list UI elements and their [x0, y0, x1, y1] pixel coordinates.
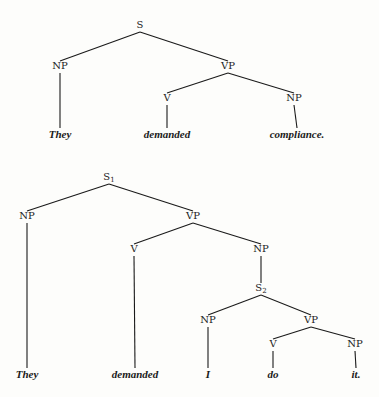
tree-edge	[109, 184, 193, 211]
category-node: VP	[303, 314, 318, 325]
category-node: VP	[220, 60, 235, 71]
leaf-word: demanded	[112, 368, 159, 380]
category-node: NP	[200, 314, 216, 325]
tree-edge	[273, 327, 311, 339]
tree-edge	[193, 223, 261, 244]
leaf-word: compliance.	[270, 128, 325, 140]
category-node: NP	[52, 60, 68, 71]
category-node: S	[137, 19, 144, 30]
category-node: S1	[103, 171, 114, 184]
category-node: V	[129, 243, 138, 254]
tree-edge	[134, 256, 135, 368]
leaf-word: it.	[352, 368, 361, 380]
category-node: VP	[185, 210, 200, 221]
tree-canvas: SNPVPVNPTheydemandedcompliance.S1NPVPVNP…	[0, 0, 379, 397]
leaf-word: They	[16, 368, 39, 380]
category-node: NP	[286, 92, 302, 103]
leaf-word: They	[49, 128, 72, 140]
leaf-word: I	[205, 368, 211, 380]
tree-2: S1NPVPVNPS2NPVPVNPTheydemandedIdoit.	[16, 171, 363, 380]
category-node: NP	[347, 338, 363, 349]
tree-edge	[228, 73, 294, 93]
tree-edge	[208, 295, 261, 315]
tree-edge	[27, 184, 109, 211]
tree-edge	[294, 105, 297, 128]
tree-edge	[355, 351, 356, 368]
tree-edge	[140, 32, 228, 61]
tree-edge	[134, 223, 193, 244]
category-node: V	[162, 92, 171, 103]
tree-1: SNPVPVNPTheydemandedcompliance.	[49, 19, 325, 140]
tree-edge	[60, 32, 140, 61]
leaf-word: demanded	[144, 128, 191, 140]
syntax-tree-diagram: SNPVPVNPTheydemandedcompliance.S1NPVPVNP…	[0, 0, 379, 397]
category-node: NP	[19, 210, 35, 221]
category-node: NP	[253, 243, 269, 254]
tree-edge	[167, 73, 228, 93]
category-node: V	[268, 338, 277, 349]
leaf-word: do	[268, 368, 280, 380]
tree-edge	[261, 295, 311, 315]
category-node: S2	[255, 282, 266, 295]
